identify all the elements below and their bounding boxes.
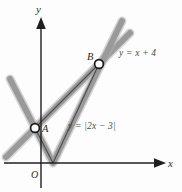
graph-figure: y x O A B y = x + 4 y = |2x − 3| — [0, 0, 182, 192]
point-marker-b — [95, 60, 104, 69]
point-label-a: A — [42, 124, 48, 135]
point-marker-a — [31, 124, 40, 133]
y-axis-label: y — [36, 4, 41, 15]
point-label-b: B — [87, 52, 93, 63]
graph-canvas — [0, 0, 182, 192]
x-axis-label: x — [168, 158, 173, 169]
origin-label: O — [31, 170, 38, 180]
x-axis — [4, 158, 166, 168]
equation-label-absolute-value: y = |2x − 3| — [68, 122, 116, 132]
equation-label-line: y = x + 4 — [119, 49, 156, 59]
